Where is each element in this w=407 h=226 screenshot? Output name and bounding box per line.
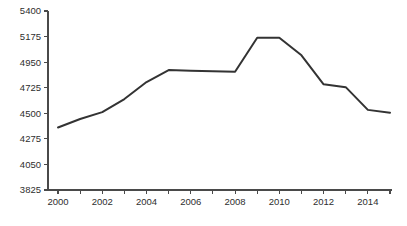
y-axis-tick-label: 5400 [20, 5, 41, 16]
x-axis-tick-label: 2014 [357, 196, 378, 207]
y-axis-tick-label: 5175 [20, 31, 41, 42]
x-axis-tick-label: 2006 [180, 196, 201, 207]
data-series-line [58, 38, 390, 128]
chart-canvas: 38254050427545004725495051755400 2000200… [0, 0, 407, 226]
x-axis-tick-label: 2002 [92, 196, 113, 207]
y-axis-tick-label: 4725 [20, 82, 41, 93]
x-axis: 20002002200420062008201020122014 [47, 190, 392, 207]
y-axis-tick-label: 4950 [20, 57, 41, 68]
line-chart: 38254050427545004725495051755400 2000200… [0, 0, 407, 226]
plot-area [58, 38, 390, 128]
y-axis-tick-label: 4500 [20, 108, 41, 119]
x-axis-tick-label: 2010 [269, 196, 290, 207]
y-axis-tick-label: 4050 [20, 159, 41, 170]
x-axis-tick-label: 2012 [313, 196, 334, 207]
x-axis-tick-label: 2004 [136, 196, 157, 207]
y-axis-tick-label: 3825 [20, 184, 41, 195]
y-axis: 38254050427545004725495051755400 [20, 5, 48, 195]
x-axis-tick-label: 2000 [47, 196, 68, 207]
x-axis-tick-label: 2008 [224, 196, 245, 207]
y-axis-tick-label: 4275 [20, 133, 41, 144]
